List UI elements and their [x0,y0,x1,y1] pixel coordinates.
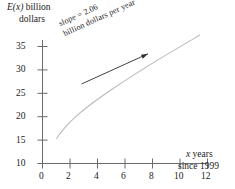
y-axis-title: E(x) billion dollars [7,1,51,25]
data-curve [56,35,200,139]
annotation-arrow [82,54,149,84]
x-tick-label-6: 6 [121,171,126,182]
x-tick-label-8: 8 [149,171,154,182]
x-tick-label-10: 10 [174,171,184,182]
y-axis-title-line1: E(x) billion [7,2,51,12]
y-tick-label-15: 15 [16,135,26,146]
y-axis-title-line2: dollars [7,13,51,25]
x-tick-label-4: 4 [94,171,99,182]
y-tick-label-35: 35 [16,41,26,52]
x-tick-label-12: 12 [201,171,211,182]
y-tick-label-30: 30 [16,64,26,75]
x-tick-label-0: 0 [39,171,44,182]
x-tick-label-2: 2 [66,171,71,182]
x-axis-title-line2: since 1999 [178,161,219,171]
y-tick-label-20: 20 [16,111,26,122]
x-axis-title-line1: x years [178,148,219,160]
chart-figure: 35 30 25 20 15 10 0 2 4 6 8 10 12 E(x) b… [0,0,235,189]
x-axis-title: x years since 1999 [178,148,219,172]
y-tick-label-25: 25 [16,88,26,99]
y-tick-label-10: 10 [16,158,26,169]
